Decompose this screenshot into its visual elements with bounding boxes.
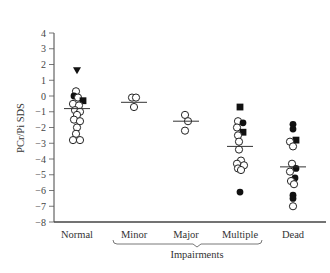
open-circle-marker <box>289 143 296 150</box>
impairments-label: Impairments <box>170 249 223 260</box>
filled-circle-marker <box>290 195 297 202</box>
y-tick-label: −5 <box>35 169 46 180</box>
filled-circle-marker <box>237 189 244 196</box>
y-tick-label: −2 <box>35 122 46 133</box>
x-category-label: Normal <box>61 229 93 240</box>
y-tick-label: −8 <box>35 217 46 228</box>
impairments-bracket <box>113 240 262 247</box>
y-tick-label: 4 <box>41 28 46 39</box>
open-circle-marker <box>130 103 137 110</box>
y-tick-label: 0 <box>41 91 46 102</box>
open-circle-marker <box>233 124 240 131</box>
y-tick-label: −3 <box>35 138 46 149</box>
y-tick-label: −1 <box>35 106 46 117</box>
open-circle-marker <box>132 94 139 101</box>
y-axis: 43210−1−2−3−4−5−6−7−8 <box>35 28 54 228</box>
open-circle-marker <box>289 203 296 210</box>
filled-circle-marker <box>240 119 247 126</box>
y-tick-label: −6 <box>35 185 46 196</box>
x-category-label: Dead <box>282 229 305 240</box>
scatter-chart: 43210−1−2−3−4−5−6−7−8 NormalMinorMajorMu… <box>0 0 330 273</box>
y-axis-title: PCr/Pi SDS <box>15 103 26 153</box>
filled-square-marker <box>237 104 244 111</box>
open-circle-marker <box>237 166 244 173</box>
y-tick-label: 1 <box>41 75 46 86</box>
x-category-label: Multiple <box>222 229 259 240</box>
open-circle-marker <box>290 181 297 188</box>
y-tick-label: −4 <box>35 154 46 165</box>
open-circle-marker <box>286 168 293 175</box>
filled-circle-marker <box>290 126 297 133</box>
open-circle-marker <box>76 137 83 144</box>
x-category-label: Minor <box>121 229 148 240</box>
y-tick-label: −7 <box>35 201 46 212</box>
y-tick-label: 2 <box>41 59 46 70</box>
open-circle-marker <box>181 127 188 134</box>
x-axis: NormalMinorMajorMultipleDead <box>54 222 326 240</box>
data-points <box>69 67 299 210</box>
y-tick-label: 3 <box>41 43 46 54</box>
open-circle-marker <box>235 146 242 153</box>
x-category-label: Major <box>173 229 199 240</box>
open-circle-marker <box>235 138 242 145</box>
open-circle-marker <box>69 137 76 144</box>
triangle-down-marker <box>73 67 81 74</box>
